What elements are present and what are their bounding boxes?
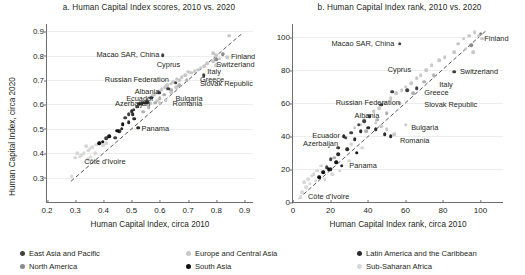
data-point <box>317 175 321 179</box>
data-point <box>340 164 344 168</box>
data-point <box>383 133 387 137</box>
data-point <box>415 77 419 81</box>
data-point <box>462 37 466 41</box>
data-point <box>193 69 197 73</box>
legend-item-ssa[interactable]: Sub-Saharan Africa <box>357 260 432 273</box>
data-point <box>432 73 436 77</box>
point-annotation-label: Romania <box>173 100 203 107</box>
legend-marker-icon <box>20 251 25 256</box>
data-point <box>183 73 187 77</box>
x-axis-tick-label: 0.3 <box>70 206 81 215</box>
data-point <box>471 50 475 54</box>
data-point <box>164 98 168 102</box>
x-axis-tick-label: 0.8 <box>211 206 222 215</box>
data-point <box>464 47 468 51</box>
data-point <box>342 134 346 138</box>
point-annotation-label: Bulgaria <box>411 124 438 131</box>
point-annotation-label: Russian Federation <box>105 76 169 83</box>
data-point <box>137 126 141 130</box>
data-point <box>467 34 471 38</box>
y-axis-tick-label: 0.8 <box>33 51 44 60</box>
data-point <box>185 78 189 82</box>
data-point <box>104 142 108 146</box>
data-point <box>115 129 119 133</box>
legend-marker-icon <box>20 264 25 269</box>
point-annotation-label: Macao SAR, China <box>96 51 159 58</box>
legend-marker-icon <box>357 264 362 269</box>
point-annotation-label: Switzerland <box>216 61 254 68</box>
y-axis-tick-label: 60 <box>281 99 290 108</box>
data-point <box>394 91 398 95</box>
data-point <box>162 93 166 97</box>
data-point <box>398 42 402 46</box>
y-axis-tick-label: 0.6 <box>33 100 44 109</box>
data-point <box>353 138 357 142</box>
legend-item-label: East Asia and Pacific <box>29 249 100 258</box>
y-axis-tick-label: 0.4 <box>33 149 44 158</box>
data-point <box>323 177 327 181</box>
data-point <box>205 61 209 65</box>
legend-item-eap[interactable]: East Asia and Pacific <box>20 247 100 260</box>
y-axis-tick-label: 100 <box>277 33 290 42</box>
point-annotation-label: Cyprus <box>388 66 411 73</box>
data-point <box>308 182 312 186</box>
legend-item-sa[interactable]: South Asia <box>186 260 231 273</box>
data-point <box>385 111 389 115</box>
data-point <box>169 82 173 86</box>
y-axis-tick-label: 20 <box>281 165 290 174</box>
point-annotation-label: Macao SAR, China <box>331 40 394 47</box>
legend-item-na[interactable]: North America <box>20 260 77 273</box>
x-axis-tick-label: 100 <box>474 206 487 215</box>
data-point <box>353 126 357 130</box>
data-point <box>212 51 216 55</box>
data-point <box>158 97 162 101</box>
data-point <box>469 44 473 48</box>
legend-item-lac[interactable]: Latin America and the Caribbean <box>357 247 477 260</box>
y-axis-tick-label: 80 <box>281 66 290 75</box>
point-annotation-label: Cyprus <box>157 61 180 68</box>
legend-item-eca[interactable]: Europe and Central Asia <box>186 247 277 260</box>
data-point <box>167 87 171 91</box>
data-point <box>392 133 396 137</box>
data-point <box>424 68 428 72</box>
data-point <box>437 58 441 62</box>
panel-a-y-axis-title: Human Capital Index, circa 2020 <box>8 77 17 196</box>
data-point <box>349 131 353 135</box>
data-point <box>190 71 194 75</box>
point-annotation-label: Greece <box>424 90 448 97</box>
legend-item-label: Latin America and the Caribbean <box>366 249 477 258</box>
chart-panel-b: b. Human Capital Index rank, 2010 vs. 20… <box>262 0 525 245</box>
data-point <box>374 128 378 132</box>
data-point <box>130 109 134 113</box>
data-point <box>409 82 413 86</box>
point-annotation-label: Russian Federation <box>336 99 400 106</box>
data-point <box>452 70 456 74</box>
data-point <box>174 81 178 85</box>
x-axis-tick-label: 0.5 <box>126 206 137 215</box>
y-axis-tick-label: 0 <box>286 198 290 207</box>
x-axis-tick-label: 20 <box>326 206 335 215</box>
data-point <box>366 126 370 130</box>
data-point <box>316 169 320 173</box>
panel-b-x-axis-title: Human Capital Index rank, circa 2010 <box>330 220 467 229</box>
legend-marker-icon <box>357 251 362 256</box>
x-axis-tick-label: 80 <box>439 206 448 215</box>
data-point <box>301 190 305 194</box>
legend-item-label: North America <box>29 262 77 271</box>
y-axis-tick-label: 0.7 <box>33 76 44 85</box>
data-point <box>97 142 101 146</box>
data-point <box>121 122 125 126</box>
point-annotation-label: Panama <box>349 162 377 169</box>
data-point <box>389 134 393 138</box>
legend-marker-icon <box>186 264 191 269</box>
y-axis-tick-label: 0.9 <box>33 27 44 36</box>
panel-b-title: b. Human Capital Index rank, 2010 vs. 20… <box>262 3 525 12</box>
figure-root: a. Human Capital Index scores, 2010 vs. … <box>0 0 525 275</box>
data-point <box>73 156 77 160</box>
data-point <box>302 180 306 184</box>
data-point <box>443 55 447 59</box>
point-annotation-label: Côte d'Ivoire <box>84 159 125 166</box>
x-axis-tick-label: 0.4 <box>98 206 109 215</box>
data-point <box>84 145 88 149</box>
data-point <box>336 152 340 156</box>
